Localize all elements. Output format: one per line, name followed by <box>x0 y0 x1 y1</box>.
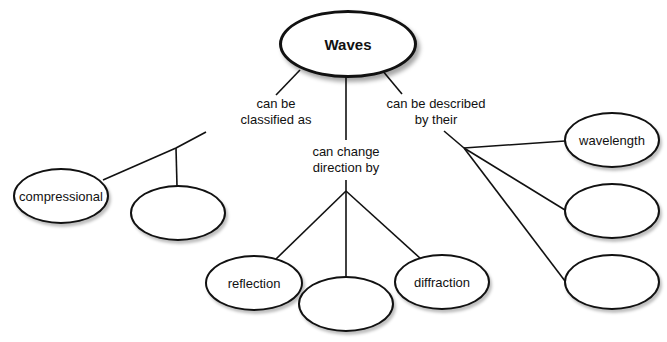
link-label-line: direction by <box>290 160 402 176</box>
node-classified-blank <box>130 185 226 241</box>
root-label: Waves <box>325 36 372 53</box>
link-label-line: classified as <box>214 112 338 128</box>
node-described-blank-1 <box>564 183 660 239</box>
node-reflection: reflection <box>205 255 303 311</box>
node-label: wavelength <box>579 133 645 148</box>
node-wavelength: wavelength <box>564 112 660 168</box>
link-label-classified: can be classified as <box>214 96 338 128</box>
node-described-blank-2 <box>564 254 660 310</box>
link-label-line: can be described <box>376 96 496 112</box>
link-label-described: can be described by their <box>376 96 496 128</box>
root-node-waves: Waves <box>279 10 417 78</box>
link-label-direction: can change direction by <box>290 144 402 176</box>
node-label: diffraction <box>414 275 470 290</box>
node-label: compressional <box>19 189 103 204</box>
node-direction-blank <box>298 276 394 332</box>
link-label-line: can be <box>214 96 338 112</box>
node-compressional: compressional <box>13 168 109 224</box>
node-label: reflection <box>228 276 281 291</box>
link-label-line: by their <box>376 112 496 128</box>
node-diffraction: diffraction <box>394 254 490 310</box>
link-label-line: can change <box>290 144 402 160</box>
